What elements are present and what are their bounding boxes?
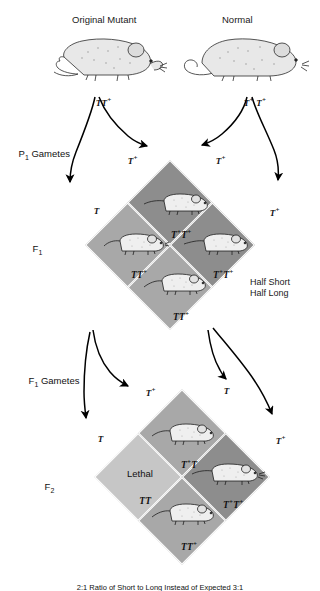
arrow-p1-left-to-Tplus (99, 97, 147, 146)
arrow-f1-to-T (208, 330, 226, 379)
arrow-layer (0, 0, 320, 591)
arrow-p1-left-to-T (70, 97, 95, 182)
genetics-punnett-diagram: Original Mutant Normal (0, 0, 320, 591)
arrow-p1-right-to-Tplus-right (252, 97, 278, 180)
arrow-f1-to-T-left (84, 332, 90, 418)
arrow-f1-to-Tplus (93, 330, 128, 386)
arrow-f1-to-Tplus-right (213, 328, 272, 414)
arrow-p1-right-to-Tplus-left (202, 97, 247, 145)
